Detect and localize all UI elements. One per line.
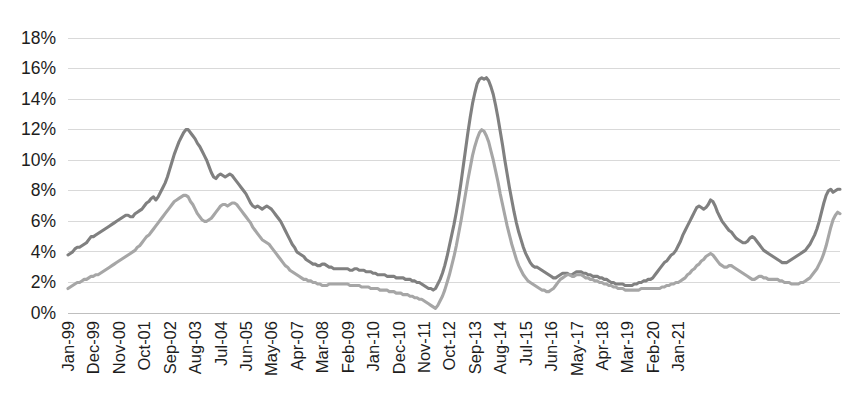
data-series-group	[68, 78, 840, 309]
y-axis-tick-label: 14%	[21, 89, 56, 109]
x-axis-tick-label: Jan-99	[59, 321, 77, 371]
y-axis-tick-label: 16%	[21, 58, 56, 78]
x-axis-tick-label: Dec-99	[84, 321, 102, 374]
gridlines	[68, 38, 840, 313]
y-axis-tick-labels: 0%2%4%6%8%10%12%14%16%18%	[21, 28, 56, 323]
x-axis-tick-label: Oct-12	[440, 321, 458, 371]
x-axis-tick-label: Jan-10	[364, 321, 382, 371]
x-axis-tick-label: Apr-18	[593, 321, 611, 371]
x-axis-tick-label: Aug-03	[186, 321, 204, 374]
y-axis-tick-label: 8%	[31, 180, 56, 200]
y-axis-tick-label: 2%	[31, 272, 56, 292]
x-axis-tick-label: Jun-16	[542, 321, 560, 371]
x-axis-tick-label: Jul-04	[212, 321, 230, 366]
x-axis-tick-label: Jun-05	[237, 321, 255, 371]
x-axis-tick-label: Jul-15	[517, 321, 535, 366]
x-axis-tick-label: Dec-10	[390, 321, 408, 374]
x-axis-tick-label: Aug-14	[491, 321, 509, 374]
x-axis-tick-label: Jan-21	[669, 321, 687, 371]
x-axis-tick-label: Mar-19	[618, 321, 636, 373]
x-axis-tick-label: Apr-07	[288, 321, 306, 371]
x-axis-tick-label: Oct-01	[135, 321, 153, 371]
x-axis-tick-label: Nov-00	[110, 321, 128, 374]
x-axis-tick-label: Sep-02	[161, 321, 179, 374]
chart-canvas: 0%2%4%6%8%10%12%14%16%18% Jan-99Dec-99No…	[0, 0, 844, 405]
y-axis-tick-label: 4%	[31, 242, 56, 262]
y-axis-tick-label: 0%	[31, 303, 56, 323]
y-axis-tick-label: 6%	[31, 211, 56, 231]
x-axis-tick-label: May-06	[262, 321, 280, 376]
x-axis-tick-label: Feb-09	[339, 321, 357, 373]
x-axis-tick-label: Nov-11	[415, 321, 433, 373]
x-axis-tick-label: May-17	[568, 321, 586, 376]
x-axis-tick-label: Sep-13	[466, 321, 484, 374]
y-axis-tick-label: 12%	[21, 119, 56, 139]
x-axis-tick-label: Feb-20	[644, 321, 662, 373]
y-axis-tick-label: 18%	[21, 28, 56, 48]
x-axis-tick-labels: Jan-99Dec-99Nov-00Oct-01Sep-02Aug-03Jul-…	[59, 321, 687, 376]
line-chart: 0%2%4%6%8%10%12%14%16%18% Jan-99Dec-99No…	[0, 0, 844, 405]
y-axis-tick-label: 10%	[21, 150, 56, 170]
x-axis-tick-label: Mar-08	[313, 321, 331, 373]
